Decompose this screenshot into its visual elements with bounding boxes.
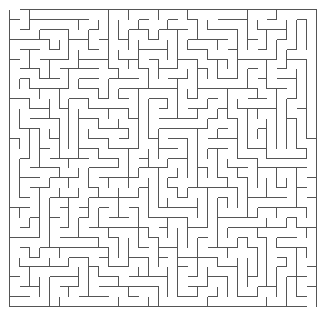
maze [0,0,324,313]
